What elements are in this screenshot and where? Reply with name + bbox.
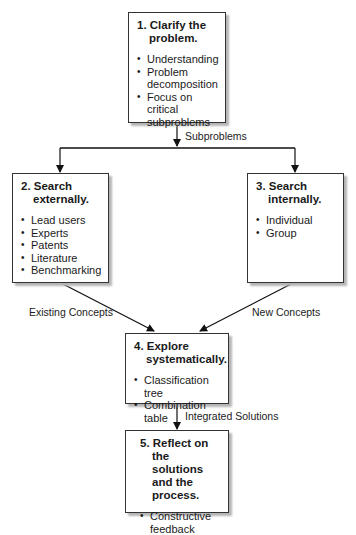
list-item: Problem decomposition	[137, 66, 219, 91]
list-item: Group	[256, 227, 337, 240]
list-item: Patents	[21, 239, 102, 252]
step-3-title: 3. Search internally.	[256, 180, 337, 206]
step-4-explore-box: 4. Explore systematically. Classificatio…	[125, 333, 229, 404]
edge-label-integrated-solutions: Integrated Solutions	[185, 410, 278, 422]
step-1-clarify-box: 1. Clarify the problem. Understanding Pr…	[128, 12, 226, 123]
list-item: Focus on critical subproblems	[137, 91, 219, 129]
list-item: Benchmarking	[21, 264, 102, 277]
step-4-title: 4. Explore systematically.	[134, 340, 222, 366]
step-5-reflect-box: 5. Reflect on the solutions and the proc…	[125, 430, 229, 513]
step-3-list: Individual Group	[256, 214, 337, 239]
edge-label-existing-concepts: Existing Concepts	[29, 306, 113, 318]
step-5-title: 5. Reflect on the solutions and the proc…	[140, 437, 222, 502]
list-item: Understanding	[137, 53, 219, 66]
list-item: Classification tree	[134, 374, 222, 399]
step-2-search-externally-box: 2. Search externally. Lead users Experts…	[12, 173, 109, 283]
step-2-list: Lead users Experts Patents Literature Be…	[21, 214, 102, 277]
step-5-list: Constructive feedback	[140, 510, 222, 535]
list-item: Literature	[21, 252, 102, 265]
step-2-title: 2. Search externally.	[21, 180, 102, 206]
list-item: Lead users	[21, 214, 102, 227]
step-1-list: Understanding Problem decomposition Focu…	[137, 53, 219, 128]
list-item: Experts	[21, 227, 102, 240]
step-1-title: 1. Clarify the problem.	[137, 19, 219, 45]
list-item: Constructive feedback	[140, 510, 222, 535]
step-3-search-internally-box: 3. Search internally. Individual Group	[247, 173, 344, 283]
list-item: Individual	[256, 214, 337, 227]
edge-label-subproblems: Subproblems	[185, 130, 247, 142]
edge-label-new-concepts: New Concepts	[252, 306, 320, 318]
